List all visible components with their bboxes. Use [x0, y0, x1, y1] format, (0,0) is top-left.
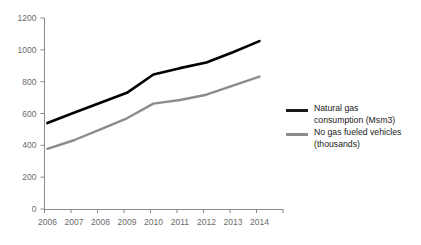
x-tick-label: 2014	[250, 217, 269, 227]
x-tick-label: 2010	[144, 217, 163, 227]
legend-label-natural-gas-consumption: Natural gas consumption (Msm3)	[314, 103, 395, 126]
y-tick-label: 1200	[18, 13, 37, 23]
y-tick-label: 200	[22, 172, 36, 182]
x-axis-tick-labels: 200620072008200920102011201220132014	[38, 217, 269, 227]
x-tick-label: 2011	[171, 217, 190, 227]
y-tick-label: 800	[22, 77, 36, 87]
chart-figure: 020040060080010001200 200620072008200920…	[0, 0, 421, 245]
y-tick-label: 400	[22, 140, 36, 150]
y-axis-group: 020040060080010001200	[18, 13, 45, 214]
y-axis-ticks	[41, 18, 45, 209]
x-tick-label: 2008	[91, 217, 110, 227]
x-tick-label: 2009	[117, 217, 136, 227]
x-axis-group: 200620072008200920102011201220132014	[38, 209, 283, 227]
legend-item-gas-fueled-vehicles: No gas fueled vehicles (thousands)	[286, 127, 421, 150]
legend-item-natural-gas-consumption: Natural gas consumption (Msm3)	[286, 103, 421, 126]
legend-swatch-gas-fueled-vehicles	[286, 133, 308, 136]
x-tick-label: 2006	[38, 217, 57, 227]
x-tick-label: 2007	[64, 217, 83, 227]
legend-swatch-natural-gas-consumption	[286, 109, 308, 112]
data-series-group	[47, 41, 259, 149]
y-tick-label: 600	[22, 109, 36, 119]
y-tick-label: 0	[32, 204, 37, 214]
series-line-gas-fueled-vehicles	[47, 77, 259, 149]
series-line-natural-gas-consumption	[47, 41, 259, 123]
x-tick-label: 2012	[197, 217, 216, 227]
y-tick-label: 1000	[18, 45, 37, 55]
legend-label-gas-fueled-vehicles: No gas fueled vehicles (thousands)	[314, 127, 401, 150]
x-tick-label: 2013	[223, 217, 242, 227]
y-axis-tick-labels: 020040060080010001200	[18, 13, 37, 214]
chart-legend: Natural gas consumption (Msm3) No gas fu…	[286, 103, 421, 151]
